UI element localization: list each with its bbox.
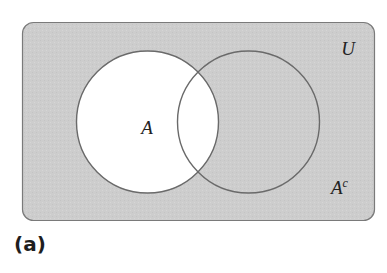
- complement-label-superscript: c: [343, 176, 349, 190]
- figure-caption: (a): [14, 234, 46, 254]
- venn-diagram: A U Ac: [0, 0, 387, 273]
- complement-label-base: A: [329, 177, 343, 198]
- venn-diagram-figure: A U Ac (a): [0, 0, 387, 273]
- universe-label: U: [341, 38, 356, 59]
- set-a-label: A: [139, 117, 153, 138]
